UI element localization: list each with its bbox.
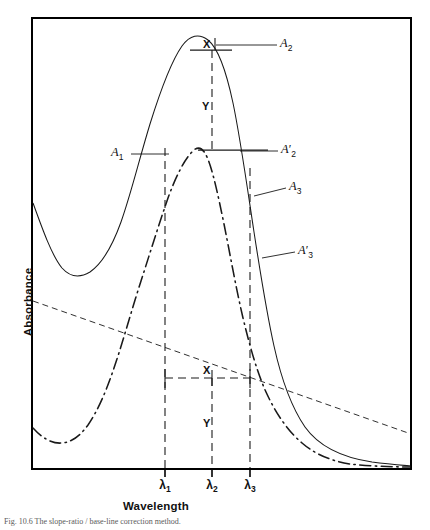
x-tick-label-lambda-1: λ1 [148,478,182,494]
x-axis-label: Wavelength [31,500,281,512]
x-tick-label-lambda-3: λ3 [233,478,267,494]
curve-label-A2: A2 [280,36,292,53]
measurement-label-X-lower: X [203,364,210,376]
measurement-label-Y-lower: Y [203,417,210,429]
curve-label-A3: A3 [289,179,301,196]
measurement-label-Y-upper: Y [202,100,209,112]
figure-caption: Fig. 10.6 The slope-ratio / base-line co… [4,516,428,530]
figure-spectral-baseline-method: Absorbance Wavelength λ1 λ2 λ3 A1 A2 A′2… [0,0,430,530]
curve-label-A1: A1 [111,145,123,162]
curve-label-A2-prime: A′2 [281,142,296,159]
curve-label-A3-prime: A′3 [298,243,313,260]
x-tick-label-lambda-2: λ2 [195,478,229,494]
plot-frame [31,17,412,470]
y-axis-label: Absorbance [22,252,34,352]
measurement-label-X-upper: X [203,38,210,50]
